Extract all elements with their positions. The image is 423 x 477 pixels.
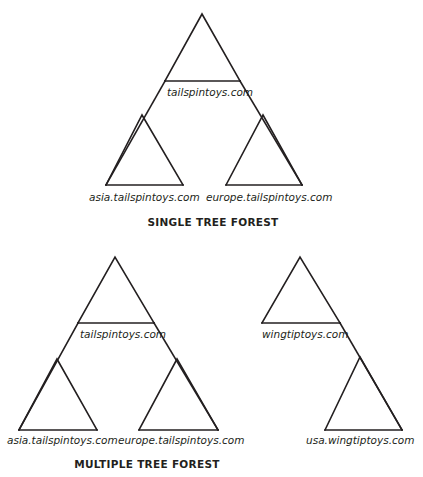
root-domain-label: tailspintoys.com	[80, 328, 166, 340]
tree-wingtiptoys-tree: wingtiptoys.comusa.wingtiptoys.com	[262, 257, 414, 446]
child-triangle-sides	[106, 115, 183, 185]
child-tree-0: asia.tailspintoys.com	[89, 115, 200, 203]
child-domain-label: asia.tailspintoys.com	[89, 191, 200, 203]
child-triangle-sides	[139, 359, 218, 430]
figure-caption: SINGLE TREE FOREST	[147, 216, 279, 228]
child-tree-0: usa.wingtiptoys.com	[306, 357, 414, 446]
root-domain-label: tailspintoys.com	[167, 86, 253, 98]
tree-tailspintoys-tree: tailspintoys.comasia.tailspintoys.comeur…	[89, 14, 332, 203]
child-tree-1: europe.tailspintoys.com	[206, 115, 332, 203]
child-domain-label: europe.tailspintoys.com	[118, 434, 244, 446]
forest-diagram: tailspintoys.comasia.tailspintoys.comeur…	[0, 0, 423, 477]
root-triangle-sides	[78, 257, 154, 323]
child-domain-label: asia.tailspintoys.com	[7, 434, 118, 446]
figure-single-tree-forest: tailspintoys.comasia.tailspintoys.comeur…	[89, 14, 332, 228]
root-triangle-sides	[262, 257, 340, 323]
child-triangle-sides	[325, 357, 402, 430]
tree-tailspintoys-tree-2: tailspintoys.comasia.tailspintoys.comeur…	[7, 257, 244, 446]
child-tree-0: asia.tailspintoys.com	[7, 359, 118, 446]
child-tree-1: europe.tailspintoys.com	[118, 359, 244, 446]
child-triangle-sides	[19, 359, 97, 430]
child-domain-label: usa.wingtiptoys.com	[306, 434, 414, 446]
root-triangle-sides	[165, 14, 240, 81]
figure-caption: MULTIPLE TREE FOREST	[74, 458, 220, 470]
child-domain-label: europe.tailspintoys.com	[206, 191, 332, 203]
child-triangle-sides	[226, 115, 302, 185]
diagram-canvas: tailspintoys.comasia.tailspintoys.comeur…	[0, 0, 423, 477]
figure-multiple-tree-forest: tailspintoys.comasia.tailspintoys.comeur…	[7, 257, 414, 470]
root-domain-label: wingtiptoys.com	[262, 328, 349, 340]
